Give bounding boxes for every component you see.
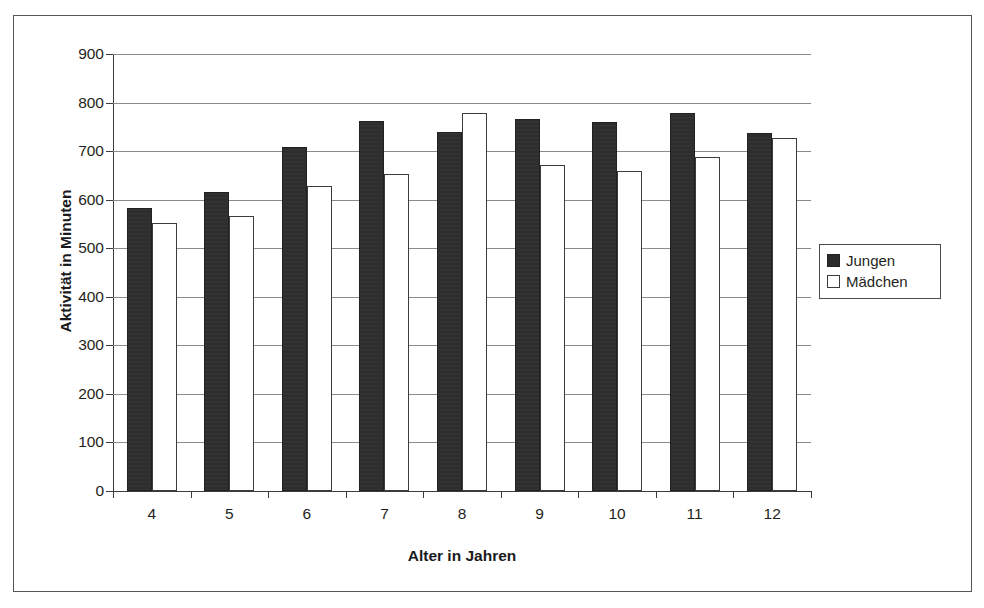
bar-mdchen-age-6 xyxy=(307,186,332,491)
bar-mdchen-age-11 xyxy=(695,157,720,491)
bar-jungen-age-6 xyxy=(282,147,307,491)
x-axis-tick-label: 7 xyxy=(380,505,389,523)
y-axis-tick xyxy=(106,394,113,395)
x-axis-tick xyxy=(268,491,269,498)
y-axis-tick-label: 0 xyxy=(95,482,104,500)
bar-jungen-age-5 xyxy=(204,192,229,491)
x-axis-tick-label: 6 xyxy=(303,505,312,523)
bar-jungen-age-9 xyxy=(515,119,540,491)
x-axis-baseline xyxy=(113,491,811,492)
y-axis-tick-label: 800 xyxy=(78,94,104,112)
x-axis-tick xyxy=(811,491,812,498)
x-axis-tick xyxy=(733,491,734,498)
x-axis-tick xyxy=(501,491,502,498)
y-axis-tick-label: 500 xyxy=(78,239,104,257)
y-axis-title: Aktivität in Minuten xyxy=(57,111,75,411)
chart-legend: JungenMädchen xyxy=(819,244,941,299)
bar-jungen-age-7 xyxy=(359,121,384,491)
bar-jungen-age-8 xyxy=(437,132,462,491)
legend-item-mdchen[interactable]: Mädchen xyxy=(827,271,933,292)
y-axis-tick xyxy=(106,491,113,492)
x-axis-tick-label: 9 xyxy=(535,505,544,523)
legend-item-jungen[interactable]: Jungen xyxy=(827,250,933,271)
y-axis-tick-label: 400 xyxy=(78,288,104,306)
x-axis-tick xyxy=(346,491,347,498)
y-axis-tick-label: 200 xyxy=(78,385,104,403)
x-axis-tick-label: 12 xyxy=(764,505,781,523)
y-axis-tick-label: 300 xyxy=(78,336,104,354)
x-axis-tick-label: 8 xyxy=(458,505,467,523)
bar-mdchen-age-12 xyxy=(772,138,797,491)
x-axis-tick-label: 10 xyxy=(608,505,625,523)
y-axis-tick-label: 900 xyxy=(78,45,104,63)
y-axis-tick xyxy=(106,103,113,104)
y-axis-tick xyxy=(106,297,113,298)
grid-line xyxy=(113,103,811,104)
legend-item-label: Jungen xyxy=(846,253,895,268)
x-axis-tick xyxy=(578,491,579,498)
y-axis-tick xyxy=(106,345,113,346)
legend-item-label: Mädchen xyxy=(846,274,908,289)
plot-area: 0100200300400500600700800900456789101112 xyxy=(113,54,811,491)
legend-swatch-icon xyxy=(827,275,840,288)
x-axis-tick xyxy=(191,491,192,498)
y-axis-tick-label: 700 xyxy=(78,142,104,160)
y-axis-tick xyxy=(106,442,113,443)
y-axis-tick xyxy=(106,54,113,55)
y-axis-tick-label: 600 xyxy=(78,191,104,209)
grid-line xyxy=(113,54,811,55)
bar-mdchen-age-9 xyxy=(540,165,565,491)
y-axis-tick xyxy=(106,151,113,152)
bar-jungen-age-4 xyxy=(127,208,152,491)
chart-frame: 0100200300400500600700800900456789101112… xyxy=(13,15,972,592)
x-axis-tick xyxy=(113,491,114,498)
bar-mdchen-age-5 xyxy=(229,216,254,491)
bar-mdchen-age-8 xyxy=(462,113,487,491)
y-axis-tick xyxy=(106,248,113,249)
bar-jungen-age-11 xyxy=(670,113,695,491)
y-axis-line xyxy=(113,54,114,491)
x-axis-tick-label: 4 xyxy=(147,505,156,523)
bar-mdchen-age-10 xyxy=(617,171,642,491)
x-axis-title: Alter in Jahren xyxy=(113,547,811,565)
x-axis-tick xyxy=(656,491,657,498)
x-axis-tick-label: 5 xyxy=(225,505,234,523)
bar-jungen-age-12 xyxy=(747,133,772,491)
x-axis-tick xyxy=(423,491,424,498)
bar-jungen-age-10 xyxy=(592,122,617,491)
bar-mdchen-age-4 xyxy=(152,223,177,491)
y-axis-tick xyxy=(106,200,113,201)
bar-mdchen-age-7 xyxy=(384,174,409,491)
y-axis-tick-label: 100 xyxy=(78,433,104,451)
legend-swatch-icon xyxy=(827,254,840,267)
x-axis-tick-label: 11 xyxy=(687,505,703,523)
